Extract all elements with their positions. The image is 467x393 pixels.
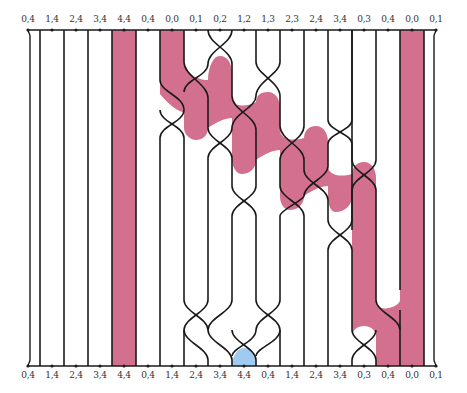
bottom-label: 0,1	[429, 370, 443, 380]
bottom-label: 0,4	[381, 370, 395, 380]
diagram-canvas	[0, 0, 467, 393]
left-border	[28, 30, 30, 366]
top-label: 0,4	[21, 14, 35, 24]
bottom-label: 3,4	[333, 370, 347, 380]
bottom-label: 2,4	[189, 370, 203, 380]
top-label: 4,4	[117, 14, 131, 24]
top-label: 0,0	[405, 14, 419, 24]
pink-column-0-0	[400, 30, 424, 366]
top-label: 0,3	[357, 14, 371, 24]
top-label: 0,1	[189, 14, 203, 24]
top-label: 0,4	[141, 14, 155, 24]
bottom-label: 2,4	[69, 370, 83, 380]
top-label: 3,4	[93, 14, 107, 24]
top-label: 3,4	[333, 14, 347, 24]
bottom-label: 3,4	[93, 370, 107, 380]
bottom-label: 0,4	[141, 370, 155, 380]
bottom-label: 0,4	[21, 370, 35, 380]
bottom-label: 4,4	[237, 370, 251, 380]
top-label: 2,4	[309, 14, 323, 24]
top-label: 0,1	[429, 14, 443, 24]
top-label: 2,3	[285, 14, 299, 24]
bottom-label: 1,4	[45, 370, 59, 380]
strand-diagram: 0,4 1,4 2,4 3,4 4,4 0,4 0,0 0,1 0,2 1,2 …	[0, 0, 467, 393]
top-label: 0,0	[165, 14, 179, 24]
pink-column-4-4	[112, 30, 136, 366]
top-label: 0,4	[381, 14, 395, 24]
top-label: 2,4	[69, 14, 83, 24]
right-border	[434, 30, 436, 366]
bottom-label: 0,0	[405, 370, 419, 380]
top-label: 1,3	[261, 14, 275, 24]
bottom-label: 4,4	[117, 370, 131, 380]
bottom-label: 3,4	[213, 370, 227, 380]
bottom-label: 0,3	[357, 370, 371, 380]
top-label: 1,4	[45, 14, 59, 24]
bottom-label: 1,4	[285, 370, 299, 380]
bottom-label: 2,4	[309, 370, 323, 380]
top-label: 1,2	[237, 14, 251, 24]
top-label: 0,2	[213, 14, 227, 24]
bottom-label: 0,4	[261, 370, 275, 380]
bottom-label: 1,4	[165, 370, 179, 380]
